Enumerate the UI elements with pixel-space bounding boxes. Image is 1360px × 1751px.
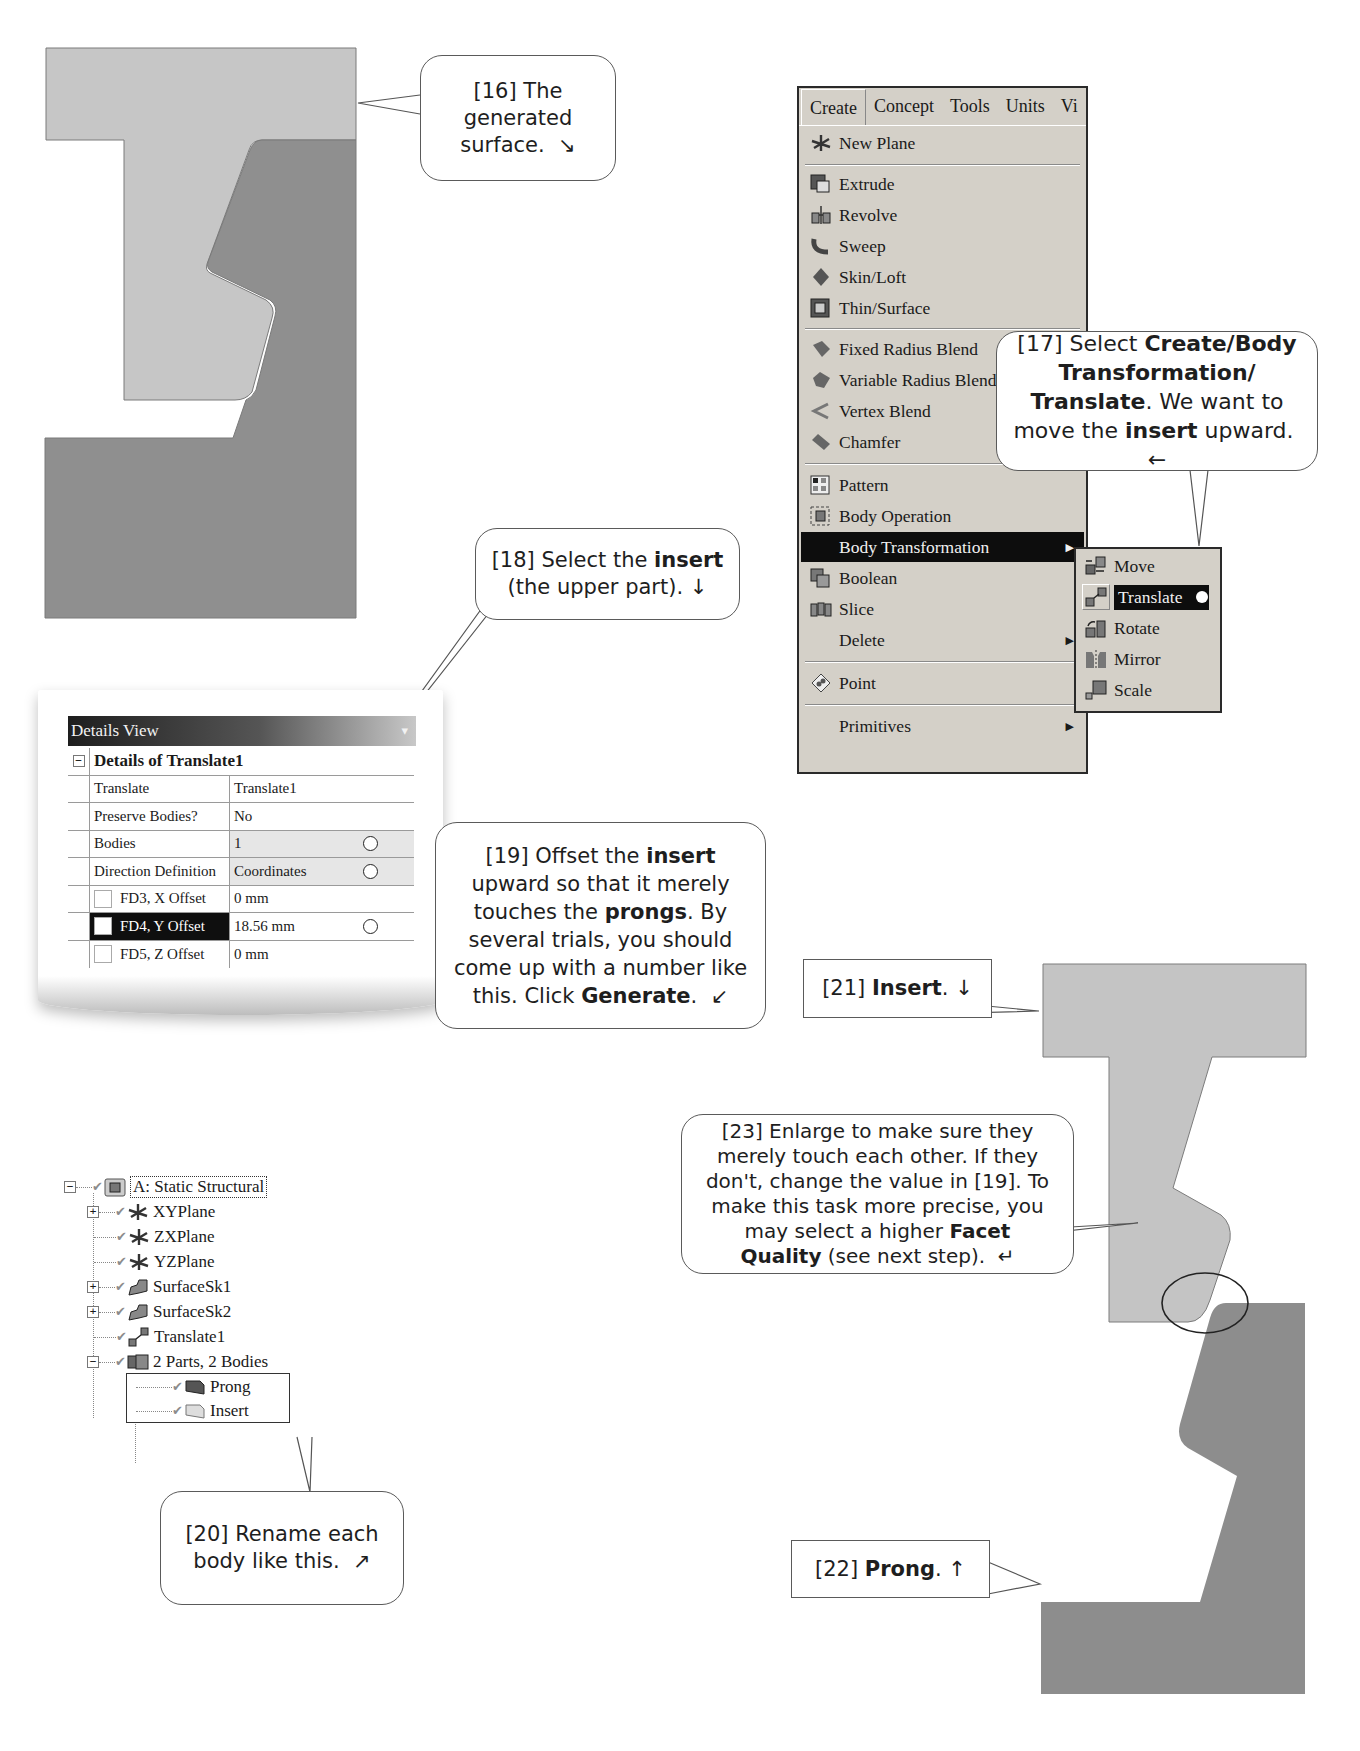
tree-item-parts-bodies[interactable]: − ✔ 2 Parts, 2 Bodies <box>87 1350 268 1374</box>
chamfer-icon <box>809 431 833 453</box>
callout-number: [16] <box>474 79 517 103</box>
sweep-icon <box>809 235 833 257</box>
submenu-item-move[interactable]: Move <box>1078 551 1218 581</box>
tree-item-zxplane[interactable]: ✔ ZXPlane <box>94 1225 214 1249</box>
translate-icon <box>1082 584 1110 610</box>
menu-tools[interactable]: Tools <box>942 96 998 117</box>
submenu-item-mirror[interactable]: Mirror <box>1078 644 1218 674</box>
expand-icon[interactable]: + <box>87 1206 99 1218</box>
check-icon: ✔ <box>115 1354 126 1370</box>
tree-item-yzplane[interactable]: ✔ YZPlane <box>94 1250 214 1274</box>
table-row: Bodies 1 <box>68 831 414 859</box>
menu-item-body-transformation[interactable]: Body Transformation ▶ <box>801 532 1084 562</box>
menu-item-point[interactable]: Point <box>801 668 1084 698</box>
tree-item-surfacesk1[interactable]: + ✔ SurfaceSk1 <box>87 1275 231 1299</box>
submenu-item-scale[interactable]: Scale <box>1078 675 1218 705</box>
menu-item-slice[interactable]: Slice <box>801 594 1084 624</box>
tree-item-xyplane[interactable]: + ✔ XYPlane <box>87 1200 215 1224</box>
y-offset-value[interactable]: 18.56 mm <box>230 913 414 940</box>
marker-circle <box>363 836 378 851</box>
pin-icon[interactable]: ▾ <box>401 716 408 746</box>
expand-icon[interactable]: + <box>87 1281 99 1293</box>
tree-item-translate1[interactable]: ✔ Translate1 <box>94 1325 225 1349</box>
table-row: Translate Translate1 <box>68 776 414 804</box>
slice-icon <box>809 598 833 620</box>
menu-item-skin-loft[interactable]: Skin/Loft <box>801 262 1084 292</box>
menu-item-body-operation[interactable]: Body Operation <box>801 501 1084 531</box>
tree-item-insert[interactable]: ✔ Insert <box>136 1399 249 1423</box>
arrow-down-right-icon: ↘ <box>558 133 576 157</box>
marker-circle <box>363 864 378 879</box>
check-icon: ✔ <box>92 1179 103 1195</box>
menu-item-extrude[interactable]: Extrude <box>801 169 1084 199</box>
callout-17: [17] Select Create/Body Transformation/ … <box>996 331 1318 471</box>
menu-item-pattern[interactable]: Pattern <box>801 470 1084 500</box>
surface-body-icon <box>184 1401 206 1421</box>
collapse-icon[interactable]: − <box>73 755 85 767</box>
callout-text: surface. <box>460 133 544 157</box>
menu-units[interactable]: Units <box>998 96 1053 117</box>
details-view-title-bar: Details View ▾ <box>68 716 416 746</box>
new-plane-icon <box>809 132 833 154</box>
bodies-value[interactable]: 1 <box>230 831 414 858</box>
sketch-icon <box>127 1277 149 1297</box>
insert-body-left <box>46 48 356 400</box>
prong-body-left <box>45 140 356 618</box>
callout-21: [21] Insert. ↓ <box>803 959 992 1018</box>
pointer-dot <box>1196 591 1208 603</box>
vertex-blend-icon <box>809 400 833 422</box>
menu-item-thin-surface[interactable]: Thin/Surface <box>801 293 1084 323</box>
move-icon <box>1082 553 1110 579</box>
menu-item-boolean[interactable]: Boolean <box>801 563 1084 593</box>
tree-item-root[interactable]: − ✔ A: Static Structural <box>64 1175 267 1199</box>
parameter-checkbox[interactable] <box>94 917 112 935</box>
tree-item-prong[interactable]: ✔ Prong <box>136 1375 251 1399</box>
menu-view[interactable]: Vi <box>1053 96 1078 117</box>
submenu-arrow-icon: ▶ <box>1066 720 1074 733</box>
submenu-item-rotate[interactable]: Rotate <box>1078 613 1218 643</box>
contact-circle <box>1162 1273 1248 1333</box>
collapse-icon[interactable]: − <box>87 1356 99 1368</box>
check-icon: ✔ <box>115 1304 126 1320</box>
callout-20: [20] Rename each body like this. ↗ <box>160 1491 404 1605</box>
callout-22: [22] Prong. ↑ <box>791 1540 990 1598</box>
menu-create[interactable]: Create <box>801 89 866 125</box>
marker-circle <box>363 919 378 934</box>
collapse-icon[interactable]: − <box>64 1181 76 1193</box>
arrow-left-icon: ← <box>1148 447 1166 472</box>
expand-icon[interactable]: + <box>87 1306 99 1318</box>
direction-definition-value[interactable]: Coordinates <box>230 858 414 885</box>
check-icon: ✔ <box>116 1329 127 1345</box>
arrow-down-left-icon: ↙ <box>711 984 729 1008</box>
table-row: Direction Definition Coordinates <box>68 858 414 886</box>
callout-19: [19] Offset the insert upward so that it… <box>435 822 766 1029</box>
parameter-checkbox[interactable] <box>94 945 112 963</box>
arrow-down-icon: ↓ <box>690 575 708 599</box>
translate-icon <box>128 1327 150 1347</box>
check-icon: ✔ <box>172 1403 183 1419</box>
arrow-up-icon: ↑ <box>948 1556 966 1583</box>
table-row: FD3, X Offset 0 mm <box>68 886 414 914</box>
generated-surface-left <box>45 48 356 618</box>
menu-item-revolve[interactable]: Revolve <box>801 200 1084 230</box>
insert-prong-right <box>1041 964 1306 1694</box>
menu-concept[interactable]: Concept <box>866 96 942 117</box>
skin-loft-icon <box>809 266 833 288</box>
menu-item-sweep[interactable]: Sweep <box>801 231 1084 261</box>
menu-item-new-plane[interactable]: New Plane <box>801 128 1084 158</box>
submenu-item-translate[interactable]: Translate <box>1078 582 1218 612</box>
menu-item-delete[interactable]: Delete ▶ <box>801 625 1084 655</box>
callout-text: generated <box>464 105 572 132</box>
mirror-icon <box>1082 646 1110 672</box>
body-operation-icon <box>809 505 833 527</box>
parameter-checkbox[interactable] <box>94 890 112 908</box>
plane-icon <box>128 1227 150 1247</box>
menu-item-primitives[interactable]: Primitives ▶ <box>801 711 1084 741</box>
tree-item-surfacesk2[interactable]: + ✔ SurfaceSk2 <box>87 1300 231 1324</box>
submenu-arrow-icon: ▶ <box>1066 634 1074 647</box>
arrow-down-icon: ↓ <box>955 975 973 1002</box>
scale-icon <box>1082 677 1110 703</box>
body-transformation-submenu: Move Translate Rotate Mirror Scale <box>1074 547 1222 713</box>
pattern-icon <box>809 474 833 496</box>
insert-body-right <box>1043 964 1306 1322</box>
